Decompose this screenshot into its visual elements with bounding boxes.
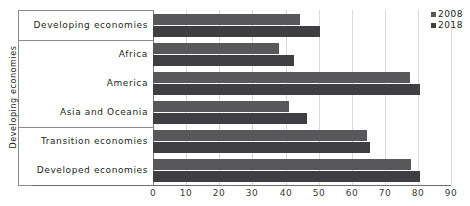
bar-developing-economies-2018 xyxy=(153,26,320,37)
gridline-90 xyxy=(451,10,452,185)
bar-africa-2018 xyxy=(153,55,294,66)
bar-america-2018 xyxy=(153,84,420,95)
bar-asia-and-oceania-2018 xyxy=(153,113,307,124)
category-label-developing-economies: Developing economies xyxy=(33,20,148,30)
x-tick-80: 80 xyxy=(412,188,424,198)
category-label-transition-economies: Transition economies xyxy=(41,136,148,146)
bar-developed-economies-2018 xyxy=(153,171,420,182)
bar-developing-economies-2008 xyxy=(153,14,300,25)
bar-transition-economies-2018 xyxy=(153,142,370,153)
x-tick-60: 60 xyxy=(346,188,358,198)
x-tick-40: 40 xyxy=(280,188,292,198)
legend-swatch-icon-2008 xyxy=(431,12,436,17)
bar-transition-economies-2008 xyxy=(153,130,367,141)
category-label-america: America xyxy=(107,78,148,88)
legend-item-2018: 2018 xyxy=(431,20,463,31)
legend-label-2008: 2008 xyxy=(438,9,463,20)
x-tick-10: 10 xyxy=(180,188,192,198)
group-label-developing-economies: Developing economies xyxy=(9,45,19,148)
x-tick-90: 90 xyxy=(445,188,457,198)
category-label-column: Developing economies Developing economie… xyxy=(0,0,153,206)
legend: 2008 2018 xyxy=(431,9,463,31)
plot-area xyxy=(153,10,451,185)
legend-swatch-icon-2018 xyxy=(431,23,436,28)
bar-africa-2008 xyxy=(153,43,279,54)
x-tick-70: 70 xyxy=(379,188,391,198)
bracket-line-mid-lower xyxy=(18,127,153,128)
legend-label-2018: 2018 xyxy=(438,20,463,31)
gridline-80 xyxy=(418,10,419,185)
bracket-line-mid-upper xyxy=(18,40,153,41)
x-axis-line xyxy=(32,185,451,186)
category-label-developed-economies: Developed economies xyxy=(37,165,148,175)
category-label-asia-and-oceania: Asia and Oceania xyxy=(60,107,148,117)
bar-america-2008 xyxy=(153,72,410,83)
x-tick-0: 0 xyxy=(150,188,156,198)
bar-developed-economies-2008 xyxy=(153,159,411,170)
category-label-africa: Africa xyxy=(119,49,148,59)
bar-asia-and-oceania-2008 xyxy=(153,101,289,112)
legend-item-2008: 2008 xyxy=(431,9,463,20)
bracket-line-top xyxy=(18,10,153,11)
bar-chart: Developing economies Developing economie… xyxy=(0,0,470,206)
x-tick-20: 20 xyxy=(213,188,225,198)
x-tick-50: 50 xyxy=(313,188,325,198)
x-tick-30: 30 xyxy=(246,188,258,198)
